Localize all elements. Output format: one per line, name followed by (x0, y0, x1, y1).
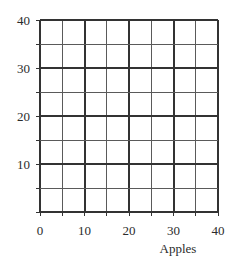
y-axis-tick-label: 10 (0, 158, 30, 171)
y-axis-tick-label: 20 (0, 110, 30, 123)
plot-area (40, 20, 218, 212)
x-axis-title: Apples (138, 242, 218, 255)
x-axis-tick-label: 40 (203, 224, 233, 237)
grid-lines (40, 20, 218, 212)
x-axis-tick-label: 30 (159, 224, 189, 237)
x-axis-tick-label: 20 (114, 224, 144, 237)
x-axis-tick-label: 10 (70, 224, 100, 237)
x-axis-tick-label: 0 (25, 224, 55, 237)
y-axis-tick-label: 40 (0, 14, 30, 27)
empty-grid-chart: 10203040 010203040 Apples (0, 0, 246, 260)
y-axis-tick-label: 30 (0, 62, 30, 75)
